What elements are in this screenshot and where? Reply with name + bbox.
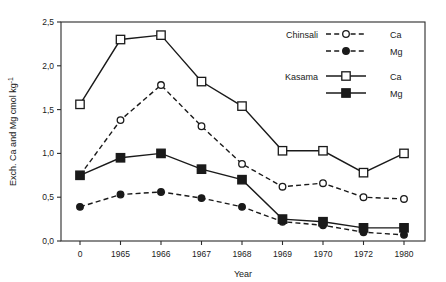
marker-open-square xyxy=(359,168,367,176)
x-tick-label: 1970 xyxy=(314,249,333,259)
marker-filled-square xyxy=(238,175,246,183)
x-axis: 019651966196719681969197019721980Year xyxy=(78,241,414,279)
legend-entry-label: Ca xyxy=(390,30,402,40)
x-axis-title: Year xyxy=(234,269,252,279)
marker-open-circle xyxy=(158,82,165,89)
legend-item: ChinsaliCa xyxy=(286,30,402,40)
marker-open-circle xyxy=(360,194,367,201)
x-tick-label: 1980 xyxy=(395,249,414,259)
marker-open-square xyxy=(157,31,165,39)
y-axis: 0,00,51,01,52,02,5 xyxy=(42,17,61,246)
legend-item: KasamaCa xyxy=(285,72,402,82)
marker-open-square xyxy=(342,72,350,80)
svg-text:Exch. Ca and Mg cmol kg-1: Exch. Ca and Mg cmol kg-1 xyxy=(7,77,19,186)
y-tick-label: 1,0 xyxy=(42,148,54,158)
marker-open-circle xyxy=(198,123,205,130)
marker-filled-square xyxy=(197,165,205,173)
marker-open-square xyxy=(278,147,286,155)
marker-open-circle xyxy=(343,31,350,38)
marker-open-circle xyxy=(117,117,124,124)
marker-filled-square xyxy=(116,154,124,162)
x-tick-label: 1965 xyxy=(111,249,130,259)
x-tick-label: 1972 xyxy=(354,249,373,259)
marker-filled-square xyxy=(359,224,367,232)
marker-filled-square xyxy=(157,149,165,157)
chart-figure: 0,00,51,01,52,02,5Exch. Ca and Mg cmol k… xyxy=(0,0,446,282)
line-chart: 0,00,51,01,52,02,5Exch. Ca and Mg cmol k… xyxy=(0,0,446,282)
marker-open-circle xyxy=(401,196,408,203)
marker-open-square xyxy=(116,35,124,43)
legend-entry-label: Ca xyxy=(390,72,402,82)
legend-group-label: Kasama xyxy=(285,72,318,82)
x-tick-label: 1967 xyxy=(192,249,211,259)
marker-filled-circle xyxy=(77,204,84,211)
y-tick-label: 2,5 xyxy=(42,17,54,27)
legend: ChinsaliCaMgKasamaCaMg xyxy=(285,30,403,99)
marker-filled-square xyxy=(76,171,84,179)
legend-entry-label: Mg xyxy=(390,89,403,99)
marker-filled-circle xyxy=(117,191,124,198)
marker-filled-square xyxy=(278,215,286,223)
y-tick-label: 0,5 xyxy=(42,192,54,202)
x-tick-label: 0 xyxy=(78,249,83,259)
marker-filled-square xyxy=(342,89,350,97)
marker-open-circle xyxy=(239,161,246,168)
y-axis-title: Exch. Ca and Mg cmol kg-1 xyxy=(7,77,19,186)
series-line xyxy=(80,192,404,235)
marker-open-square xyxy=(197,77,205,85)
legend-group-label: Chinsali xyxy=(286,30,318,40)
y-tick-label: 0,0 xyxy=(42,236,54,246)
marker-filled-circle xyxy=(198,195,205,202)
legend-entry-label: Mg xyxy=(390,47,403,57)
legend-item: Mg xyxy=(326,47,403,57)
x-tick-label: 1969 xyxy=(273,249,292,259)
marker-filled-square xyxy=(319,218,327,226)
x-tick-label: 1966 xyxy=(152,249,171,259)
marker-open-square xyxy=(76,100,84,108)
y-tick-label: 2,0 xyxy=(42,61,54,71)
series-chinsali-mg xyxy=(77,189,408,239)
marker-filled-square xyxy=(400,224,408,232)
marker-open-square xyxy=(319,147,327,155)
series-kasama-ca xyxy=(76,31,408,177)
marker-filled-circle xyxy=(343,48,350,55)
marker-filled-circle xyxy=(239,204,246,211)
marker-open-square xyxy=(238,102,246,110)
marker-filled-circle xyxy=(158,189,165,196)
y-tick-label: 1,5 xyxy=(42,105,54,115)
marker-open-circle xyxy=(320,180,327,187)
marker-open-circle xyxy=(279,183,286,190)
marker-open-square xyxy=(400,149,408,157)
legend-item: Mg xyxy=(326,89,403,99)
x-tick-label: 1968 xyxy=(233,249,252,259)
